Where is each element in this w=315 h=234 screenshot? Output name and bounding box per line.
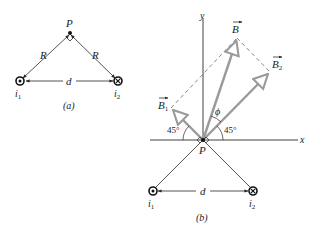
wire-2-into-page-icon [114,77,122,85]
right-angle-mark [66,37,74,41]
point-p-label: P [65,17,73,29]
side-right-label: R [91,49,99,61]
line-p-to-wire-1 [156,140,203,187]
line-p-to-wire-2 [203,140,250,187]
angle-left-label: 45° [167,125,180,135]
point-p-label: P [198,144,206,156]
angle-arc-right [217,126,223,140]
wire-1-out-of-page-icon [149,187,157,195]
distance-label: d [200,185,206,197]
wire-2-label: i2 [249,198,256,211]
svg-text:B: B [232,23,239,35]
angle-phi-label: ϕ [215,106,220,117]
wire-2-label: i2 [114,88,121,101]
figure-a: P R R d i1 i2 (a) [15,17,122,112]
dashed-line-b-to-b2 [237,38,270,72]
wire-1-label: i1 [148,198,155,211]
dashed-line-b1-to-b [171,38,237,108]
figure-b: y x B B2 B1 45° 45° ϕ [148,10,305,224]
angle-right-label: 45° [224,125,237,135]
wire-1-out-of-page-icon [16,77,24,85]
y-axis-label: y [199,10,205,21]
distance-label: d [66,75,72,87]
caption-a: (a) [63,100,75,112]
magnetic-field-diagram: P R R d i1 i2 (a) y x [0,0,315,234]
vector-b2-label: B2 [272,57,283,72]
point-p-dot [201,138,205,142]
vector-b-label: B [232,22,242,35]
angle-arc-left [183,126,189,140]
x-axis-label: x [299,134,305,145]
caption-b: (b) [196,212,208,224]
point-p-dot [68,31,72,35]
svg-text:B2: B2 [272,58,283,72]
svg-text:B1: B1 [158,99,169,113]
wire-2-into-page-icon [249,187,257,195]
wire-1-label: i1 [15,88,22,101]
side-left-label: R [39,49,47,61]
vector-b1-label: B1 [158,98,169,113]
